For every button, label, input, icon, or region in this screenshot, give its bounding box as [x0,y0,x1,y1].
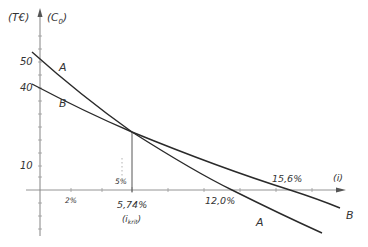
y-tick-40: 40 [20,82,33,93]
y-axis-arrow-icon [38,8,43,17]
i-krit-label: (ikrit) [122,214,141,225]
curve-a-label-bottom: A [255,216,264,229]
x-axis-label: (i) [333,172,343,183]
x-axis-arrow-icon [336,188,346,193]
x-tick-156: 15,6% [272,173,302,184]
x-tick-12: 12,0% [205,195,235,206]
curve-a-label-top: A [58,61,67,74]
y-unit-label: (T€) [8,11,29,23]
curve-b-label-top: B [59,97,67,110]
curve-b-label-bottom: B [346,209,354,222]
x-tick-5: 5% [115,177,127,186]
curve-b [32,84,340,208]
y-tick-10: 10 [20,160,33,171]
y-npv-label: (C0) [47,11,67,26]
curve-a [32,52,322,233]
x-tick-574: 5,74% [117,199,147,210]
y-axis [38,8,43,236]
npv-chart: (T€) (C0) 50 40 10 A B A B 2% 5% 5,74% (… [0,0,368,247]
y-tick-50: 50 [20,56,33,67]
x-tick-2: 2% [65,196,77,205]
